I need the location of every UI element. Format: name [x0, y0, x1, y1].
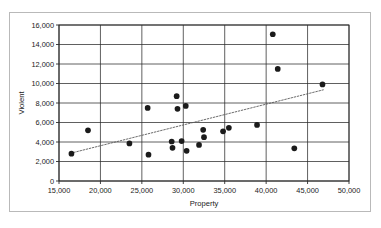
svg-text:14,000: 14,000 — [31, 40, 54, 49]
svg-text:4,000: 4,000 — [36, 138, 55, 147]
svg-text:6,000: 6,000 — [36, 118, 55, 127]
svg-text:12,000: 12,000 — [31, 60, 54, 69]
svg-text:50,000: 50,000 — [338, 186, 361, 195]
svg-text:15,000: 15,000 — [48, 186, 71, 195]
svg-text:25,000: 25,000 — [131, 186, 154, 195]
svg-text:45,000: 45,000 — [296, 186, 319, 195]
y-axis-tick-labels: 02,0004,0006,0008,00010,00012,00014,0001… — [31, 21, 54, 186]
svg-text:2,000: 2,000 — [36, 157, 55, 166]
svg-text:10,000: 10,000 — [31, 79, 54, 88]
svg-text:35,000: 35,000 — [213, 186, 236, 195]
svg-text:8,000: 8,000 — [36, 99, 55, 108]
svg-text:Violent: Violent — [17, 91, 26, 115]
x-axis-tick-labels: 15,00020,00025,00030,00035,00040,00045,0… — [48, 186, 361, 195]
chart-frame: 02,0004,0006,0008,00010,00012,00014,0001… — [9, 12, 371, 212]
svg-text:30,000: 30,000 — [172, 186, 195, 195]
scatter-chart: 02,0004,0006,0008,00010,00012,00014,0001… — [10, 13, 370, 211]
figure: 02,0004,0006,0008,00010,00012,00014,0001… — [0, 0, 381, 228]
svg-text:Property: Property — [190, 199, 219, 208]
svg-text:0: 0 — [50, 177, 54, 186]
svg-text:40,000: 40,000 — [255, 186, 278, 195]
svg-text:16,000: 16,000 — [31, 21, 54, 30]
svg-text:20,000: 20,000 — [89, 186, 112, 195]
